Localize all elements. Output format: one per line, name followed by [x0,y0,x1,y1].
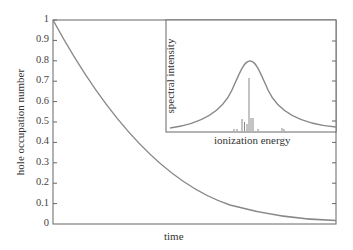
y-tick-label: 1 [27,13,49,24]
y-tick-label: 0 [27,217,49,228]
y-tick-label: 0.6 [27,95,49,106]
inset-axes-frame [166,20,336,132]
y-tick-label: 0.3 [27,156,49,167]
y-tick-label: 0.1 [27,197,49,208]
x-axis-label: time [164,230,184,242]
y-tick-label: 0.8 [27,54,49,65]
inset-y-axis-label: spectral intensity [164,31,176,121]
y-tick-label: 0.4 [27,135,49,146]
y-tick-label: 0.5 [27,115,49,126]
y-tick-label: 0.2 [27,176,49,187]
chart-canvas [0,0,353,250]
y-tick-label: 0.9 [27,33,49,44]
y-tick-label: 0.7 [27,74,49,85]
inset-x-axis-label: ionization energy [214,134,290,146]
y-axis-label: hole occupation number [14,57,26,187]
